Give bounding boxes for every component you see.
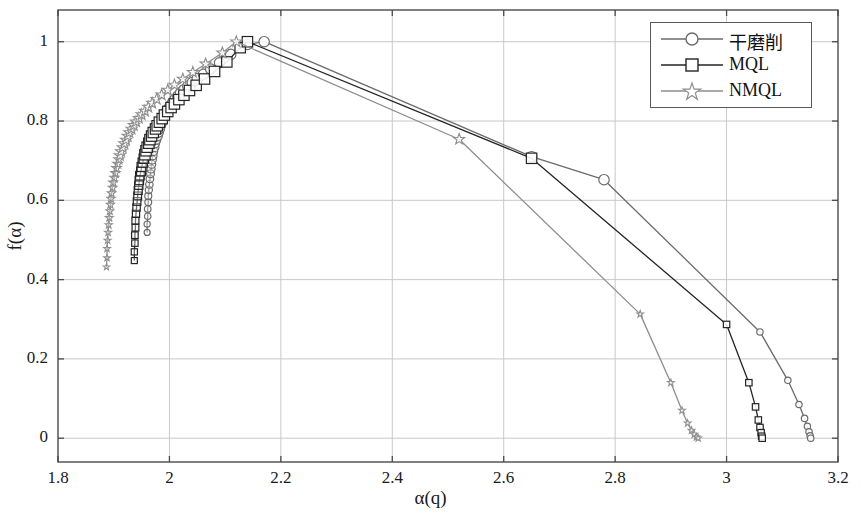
x-tick-label-7: 3.2 [808,468,861,488]
y-tick-label-3: 0.6 [0,189,48,209]
x-tick-label-5: 2.8 [585,468,645,488]
y-tick-label-1: 0.2 [0,348,48,368]
x-tick-label-0: 1.8 [28,468,88,488]
y-tick-label-5: 1 [0,31,48,51]
x-axis-label: α(q) [0,487,861,509]
legend-item-0[interactable]: 干磨削 [651,26,811,52]
x-tick-label-1: 2 [139,468,199,488]
y-tick-label-0: 0 [0,427,48,447]
chart-legend: 干磨削 MQL NMQL [650,22,812,108]
y-tick-label-4: 0.8 [0,110,48,130]
legend-label-1: MQL [729,54,769,75]
y-tick-label-2: 0.4 [0,269,48,289]
x-tick-label-2: 2.2 [251,468,311,488]
legend-label-2: NMQL [729,80,782,101]
legend-item-2[interactable]: NMQL [651,78,811,104]
x-tick-label-4: 2.6 [474,468,534,488]
square-marker-icon [659,52,725,78]
circle-marker-icon [659,26,725,52]
x-tick-label-3: 2.4 [362,468,422,488]
legend-label-0: 干磨削 [729,28,783,54]
x-tick-label-6: 3 [697,468,757,488]
star-marker-icon [659,78,725,104]
chart-root: α(q) f(α) 1.822.22.42.62.833.2 00.20.40.… [0,0,861,518]
legend-item-1[interactable]: MQL [651,52,811,78]
